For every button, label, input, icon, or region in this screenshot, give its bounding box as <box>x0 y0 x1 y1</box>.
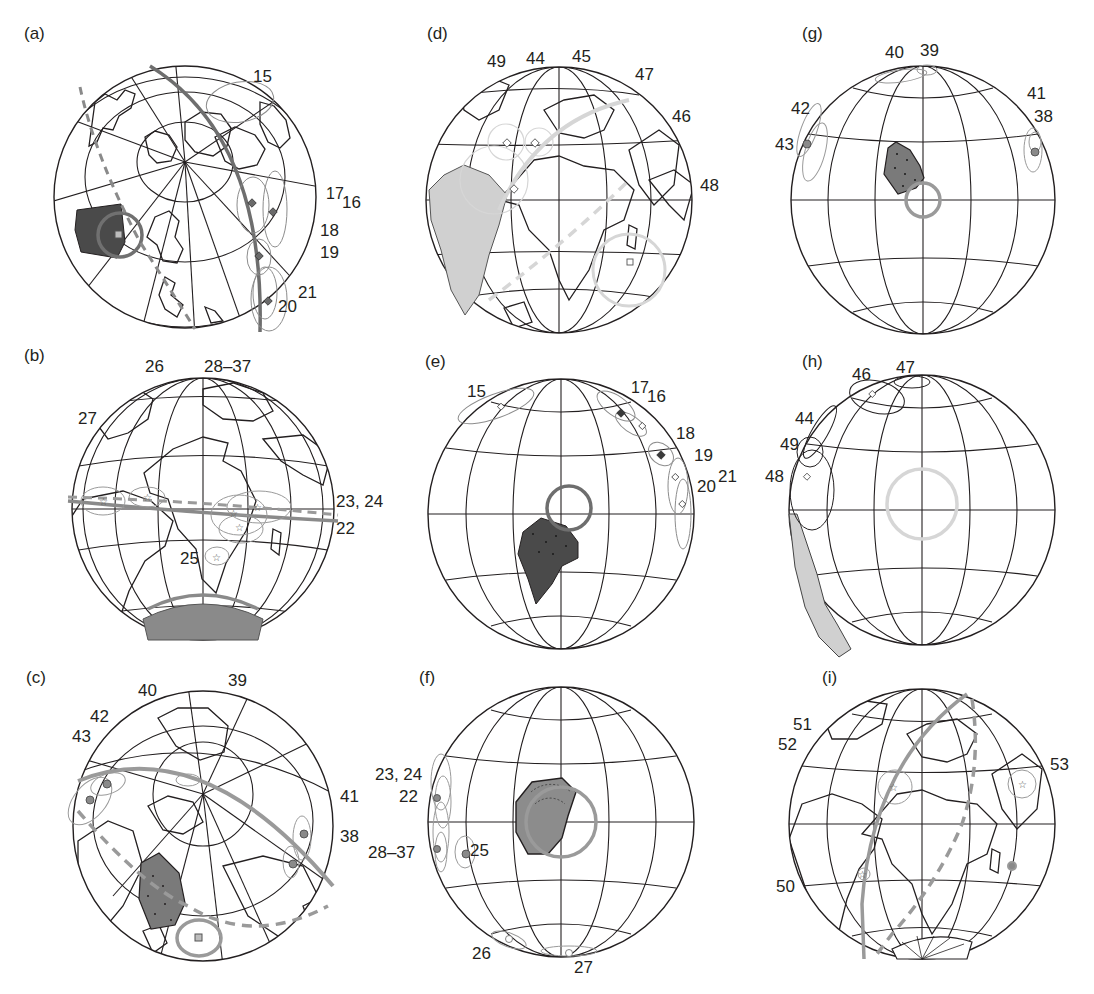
pole-label: 48 <box>700 177 719 194</box>
pole-label: 41 <box>340 788 359 805</box>
pole-label: 46 <box>852 366 871 383</box>
pole-label: 43 <box>72 728 91 745</box>
pole-label: 48 <box>765 468 784 485</box>
pole-label: 49 <box>780 436 799 453</box>
highlighted-block <box>139 853 185 929</box>
pole-label: 28–37 <box>368 844 415 861</box>
pole-label: 15 <box>467 383 486 400</box>
pole-label: 18 <box>320 222 339 239</box>
pole-label: 44 <box>795 410 814 427</box>
highlighted-block <box>789 514 851 657</box>
pole-label: 42 <box>90 708 109 725</box>
panel-f: (f) <box>365 660 729 990</box>
pole-label: 40 <box>885 44 904 61</box>
pole-label: 49 <box>487 53 506 70</box>
globe-map <box>50 62 320 332</box>
svg-text:☆: ☆ <box>1018 779 1027 790</box>
panel-letter: (a) <box>24 24 45 44</box>
globe-map <box>790 66 1056 334</box>
pole-label: 41 <box>1027 85 1046 102</box>
pole-label: 16 <box>647 388 666 405</box>
pole-label: 47 <box>896 359 915 376</box>
svg-text:☆: ☆ <box>858 869 867 880</box>
panel-letter: (h) <box>802 352 823 372</box>
svg-text:☆: ☆ <box>229 508 238 519</box>
panel-letter: (f) <box>419 668 435 688</box>
pole-label: 23, 24 <box>375 766 422 783</box>
globe-map <box>70 688 336 964</box>
pole-label: 45 <box>572 48 591 65</box>
globe-map <box>425 66 693 334</box>
globe-map <box>788 374 1056 646</box>
svg-text:☆: ☆ <box>889 782 898 793</box>
panel-c: (c) <box>0 660 364 990</box>
panel-d: (d) <box>365 0 729 330</box>
pole-label: 22 <box>336 520 355 537</box>
pole-label: 51 <box>793 716 812 733</box>
panel-b: (b) <box>0 330 364 660</box>
panel-i: (i) <box>730 660 1094 990</box>
panel-letter: (e) <box>425 352 446 372</box>
pole-label: 19 <box>320 244 339 261</box>
pole-label: 25 <box>180 550 199 567</box>
pole-label: 19 <box>694 447 713 464</box>
pole-label: 27 <box>78 410 97 427</box>
pole-label: 18 <box>676 425 695 442</box>
panel-letter: (c) <box>26 668 46 688</box>
panel-letter: (g) <box>802 24 823 44</box>
pole-label: 26 <box>472 945 491 962</box>
pole-label: 38 <box>340 828 359 845</box>
globe-map: ☆ ☆ ☆ ☆ ☆ ☆ <box>70 376 336 642</box>
highlighted-block <box>884 142 924 194</box>
globe-map <box>427 378 695 650</box>
panel-h: (h) 46 47 44 49 48 <box>730 330 1094 660</box>
pole-label: 28–37 <box>204 358 251 375</box>
svg-text:☆: ☆ <box>235 522 244 533</box>
pole-label: 39 <box>920 42 939 59</box>
svg-text:☆: ☆ <box>99 496 108 507</box>
pole-label: 46 <box>672 108 691 125</box>
pole-label: 21 <box>298 284 317 301</box>
globe-map <box>427 686 695 958</box>
highlighted-block <box>143 604 263 640</box>
panel-a: (a) <box>0 0 364 330</box>
pole-label: 53 <box>1050 756 1069 773</box>
pole-label: 40 <box>138 682 157 699</box>
panel-letter: (i) <box>822 668 837 688</box>
svg-text:☆: ☆ <box>143 492 152 503</box>
pole-label: 38 <box>1034 108 1053 125</box>
pole-label: 25 <box>470 842 489 859</box>
pole-label: 42 <box>791 100 810 117</box>
pole-label: 43 <box>775 136 794 153</box>
pole-label: 44 <box>526 50 545 67</box>
pole-label: 39 <box>228 672 247 689</box>
globe-map: ☆ ☆ ☆ <box>788 688 1056 960</box>
panel-letter: (b) <box>24 346 45 366</box>
pole-label: 47 <box>635 66 654 83</box>
pole-label: 20 <box>278 298 297 315</box>
pole-label: 22 <box>399 788 418 805</box>
panel-e: (e) <box>365 330 729 660</box>
pole-label: 26 <box>145 358 164 375</box>
pole-label: 50 <box>776 878 795 895</box>
pole-label: 20 <box>697 478 716 495</box>
svg-text:☆: ☆ <box>253 502 262 513</box>
pole-label: 52 <box>778 736 797 753</box>
pole-label: 16 <box>342 194 361 211</box>
panel-letter: (d) <box>427 24 448 44</box>
pole-label: 27 <box>574 959 593 976</box>
svg-text:☆: ☆ <box>212 552 221 563</box>
pole-label: 15 <box>253 68 272 85</box>
panel-g: (g) 40 39 41 38 4 <box>730 0 1094 330</box>
